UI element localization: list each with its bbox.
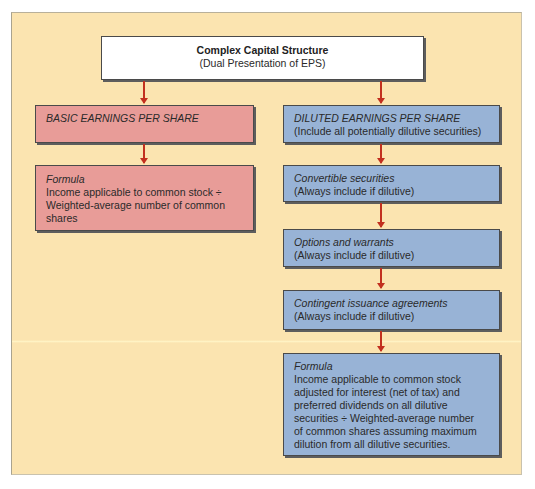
basic-formula-box: Formula Income applicable to common stoc… xyxy=(35,165,254,231)
arrow-root-to-diluted xyxy=(380,81,382,103)
diluted-formula-line: adjusted for interest (net of tax) and xyxy=(294,386,489,399)
diluted-formula-line: securities ÷ Weighted-average number xyxy=(294,412,489,425)
basic-formula-label: Formula xyxy=(46,173,243,186)
basic-formula-line: Weighted-average number of common xyxy=(46,199,243,212)
arrow-basic-to-formula xyxy=(143,144,145,163)
diluted-formula-line: dilution from all dilutive securities. xyxy=(294,438,489,451)
convertible-securities-box: Convertible securities (Always include i… xyxy=(283,165,500,202)
diluted-formula-line: of common shares assuming maximum xyxy=(294,425,489,438)
diluted-formula-label: Formula xyxy=(294,360,489,373)
options-warrants-box: Options and warrants (Always include if … xyxy=(283,229,500,267)
basic-eps-heading: BASIC EARNINGS PER SHARE xyxy=(46,112,243,125)
step-note: (Always include if dilutive) xyxy=(294,249,489,262)
arrow-diluted-to-convertible xyxy=(380,144,382,163)
basic-formula-line: Income applicable to common stock ÷ xyxy=(46,186,243,199)
arrow-contingent-to-formula xyxy=(380,331,382,351)
panel-sheen xyxy=(12,340,521,343)
step-label: Convertible securities xyxy=(294,172,489,185)
diluted-formula-box: Formula Income applicable to common stoc… xyxy=(283,353,500,456)
step-label: Options and warrants xyxy=(294,236,489,249)
step-note: (Always include if dilutive) xyxy=(294,310,489,323)
arrow-root-to-basic xyxy=(143,81,145,103)
diluted-formula-line: preferred dividends on all dilutive xyxy=(294,399,489,412)
root-subtitle: (Dual Presentation of EPS) xyxy=(112,57,413,70)
diluted-eps-heading: DILUTED EARNINGS PER SHARE xyxy=(294,112,489,125)
arrow-convertible-to-options xyxy=(380,203,382,227)
arrow-options-to-contingent xyxy=(380,268,382,288)
diluted-eps-box: DILUTED EARNINGS PER SHARE (Include all … xyxy=(283,105,500,143)
basic-eps-box: BASIC EARNINGS PER SHARE xyxy=(35,105,254,143)
diluted-formula-line: Income applicable to common stock xyxy=(294,373,489,386)
diluted-eps-note: (Include all potentially dilutive securi… xyxy=(294,125,489,138)
root-title: Complex Capital Structure xyxy=(112,44,413,57)
root-box: Complex Capital Structure (Dual Presenta… xyxy=(101,36,424,80)
step-label: Contingent issuance agreements xyxy=(294,297,489,310)
basic-formula-line: shares xyxy=(46,212,243,225)
step-note: (Always include if dilutive) xyxy=(294,185,489,198)
contingent-issuance-box: Contingent issuance agreements (Always i… xyxy=(283,290,500,330)
